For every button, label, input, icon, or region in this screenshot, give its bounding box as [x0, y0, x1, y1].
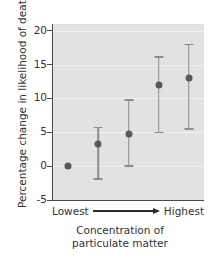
error-bar — [158, 57, 160, 132]
x-axis-title-line-2: particulate matter — [40, 237, 200, 250]
x-axis-start-label: Lowest — [52, 205, 89, 217]
y-axis-tick — [47, 132, 52, 133]
error-bar-cap — [94, 178, 103, 180]
gridline — [53, 31, 204, 32]
data-point — [155, 81, 162, 88]
x-axis-range-indicator: Lowest Highest — [52, 203, 204, 219]
data-point — [95, 141, 102, 148]
y-axis-line — [52, 24, 53, 201]
arrow-shaft — [93, 210, 153, 211]
arrow-head — [153, 208, 160, 214]
y-axis-title: Percentage change in likelihood of death — [16, 8, 28, 208]
error-bar-cap — [124, 165, 133, 167]
error-bar-cap — [154, 56, 163, 58]
y-axis-tick — [47, 166, 52, 167]
error-bar-cap — [184, 128, 193, 130]
data-point — [65, 163, 72, 170]
y-axis-tick — [47, 64, 52, 65]
error-bar-cap — [184, 44, 193, 46]
error-bar-cap — [154, 132, 163, 134]
x-axis-line — [52, 200, 204, 201]
data-point — [185, 75, 192, 82]
data-point — [125, 130, 132, 137]
gridline — [53, 65, 204, 66]
y-axis-tick — [47, 30, 52, 31]
chart-figure: 20151050-5 Lowest Highest Concentration … — [0, 0, 216, 262]
y-axis-tick — [47, 200, 52, 201]
error-bar-cap — [124, 99, 133, 101]
y-axis-tick — [47, 98, 52, 99]
x-axis-title: Concentration of particulate matter — [40, 224, 200, 250]
arrow-right-icon — [93, 206, 160, 216]
x-axis-end-label: Highest — [164, 205, 204, 217]
error-bar-cap — [94, 127, 103, 129]
error-bar — [188, 44, 190, 129]
x-axis-title-line-1: Concentration of — [40, 224, 200, 237]
error-bar — [98, 128, 100, 179]
